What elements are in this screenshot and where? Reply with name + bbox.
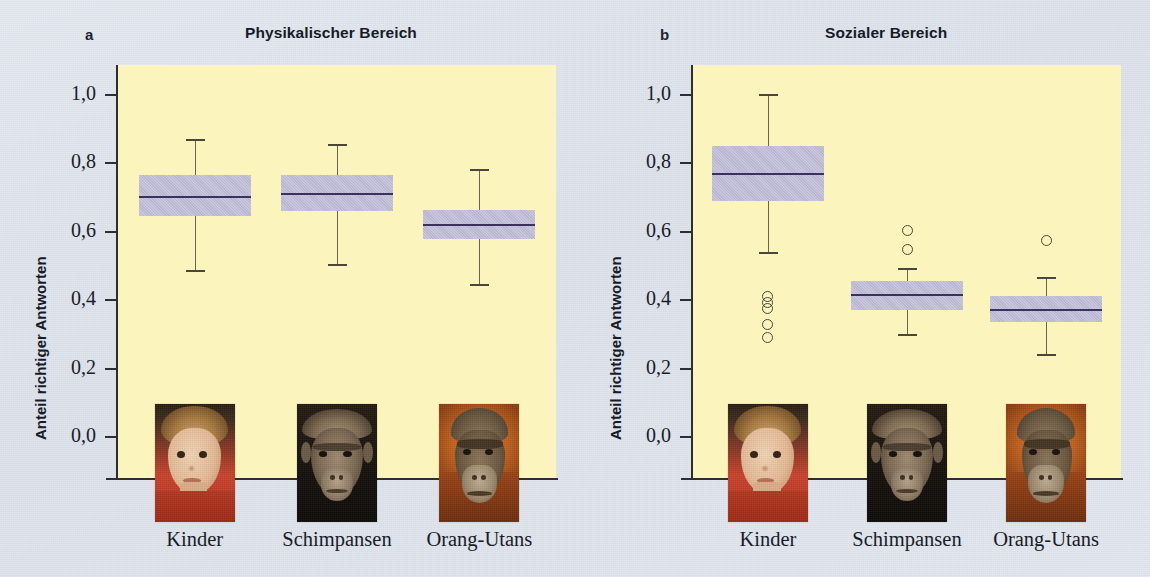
whisker-upper-a-1 bbox=[337, 145, 338, 176]
y-tick-label-a-4: 0,8 bbox=[44, 150, 96, 173]
x-tick-label-b-1: Schimpansen bbox=[829, 528, 985, 551]
y-axis-b bbox=[691, 65, 693, 480]
whisker-cap-upper-b-1 bbox=[898, 268, 917, 270]
whisker-upper-a-2 bbox=[479, 170, 480, 210]
median-a-0 bbox=[139, 196, 251, 198]
median-a-1 bbox=[281, 193, 393, 195]
chimpanzee-photo-a bbox=[297, 404, 377, 522]
y-tick-label-b-0: 0,0 bbox=[619, 424, 671, 447]
outlier-b-2-0 bbox=[1041, 235, 1052, 246]
whisker-cap-lower-a-1 bbox=[328, 264, 347, 266]
outlier-b-1-0 bbox=[902, 225, 913, 236]
whisker-lower-b-1 bbox=[907, 310, 908, 336]
whisker-upper-b-2 bbox=[1046, 278, 1047, 296]
y-tick-b-2 bbox=[680, 299, 691, 301]
whisker-cap-lower-b-0 bbox=[759, 252, 778, 254]
y-tick-a-2 bbox=[105, 299, 116, 301]
y-tick-b-3 bbox=[680, 231, 691, 233]
y-tick-b-0 bbox=[680, 436, 691, 438]
whisker-cap-upper-b-2 bbox=[1037, 277, 1056, 279]
y-tick-label-b-1: 0,2 bbox=[619, 356, 671, 379]
y-tick-a-3 bbox=[105, 231, 116, 233]
child-photo-b bbox=[728, 404, 808, 522]
median-b-0 bbox=[712, 173, 824, 175]
x-tick-label-a-2: Orang-Utans bbox=[401, 528, 557, 551]
y-tick-label-a-2: 0,4 bbox=[44, 287, 96, 310]
whisker-lower-b-0 bbox=[768, 201, 769, 254]
y-tick-label-b-2: 0,4 bbox=[619, 287, 671, 310]
panel-title-a: Physikalischer Bereich bbox=[245, 24, 417, 42]
y-axis-a bbox=[116, 65, 118, 480]
median-b-1 bbox=[851, 294, 963, 296]
y-tick-label-a-3: 0,6 bbox=[44, 219, 96, 242]
y-tick-b-4 bbox=[680, 162, 691, 164]
y-axis-label-a: Anteil richtiger Antworten bbox=[32, 256, 49, 440]
whisker-lower-b-2 bbox=[1046, 322, 1047, 355]
whisker-lower-a-0 bbox=[195, 216, 196, 271]
whisker-cap-lower-a-0 bbox=[186, 270, 205, 272]
x-tick-label-b-0: Kinder bbox=[690, 528, 846, 551]
whisker-cap-upper-b-0 bbox=[759, 94, 778, 96]
median-b-2 bbox=[990, 309, 1102, 311]
x-tick-label-b-2: Orang-Utans bbox=[968, 528, 1124, 551]
y-tick-a-5 bbox=[105, 94, 116, 96]
x-tick-label-a-0: Kinder bbox=[117, 528, 273, 551]
y-axis-label-b: Anteil richtiger Antworten bbox=[607, 256, 624, 440]
orangutan-photo-a bbox=[439, 404, 519, 522]
whisker-cap-lower-a-2 bbox=[470, 284, 489, 286]
y-tick-label-b-4: 0,8 bbox=[619, 150, 671, 173]
y-tick-b-1 bbox=[680, 368, 691, 370]
whisker-cap-upper-a-2 bbox=[470, 169, 489, 171]
whisker-cap-lower-b-2 bbox=[1037, 354, 1056, 356]
y-tick-label-a-5: 1,0 bbox=[44, 82, 96, 105]
x-tick-label-a-1: Schimpansen bbox=[259, 528, 415, 551]
whisker-upper-b-0 bbox=[768, 95, 769, 146]
outlier-b-0-4 bbox=[762, 332, 773, 343]
whisker-cap-lower-b-1 bbox=[898, 334, 917, 336]
outlier-b-1-1 bbox=[902, 244, 913, 255]
y-tick-a-4 bbox=[105, 162, 116, 164]
chimpanzee-photo-b bbox=[867, 404, 947, 522]
panel-letter-a: a bbox=[85, 26, 93, 43]
child-photo-a bbox=[155, 404, 235, 522]
whisker-lower-a-2 bbox=[479, 239, 480, 285]
y-tick-b-5 bbox=[680, 94, 691, 96]
orangutan-photo-b bbox=[1006, 404, 1086, 522]
whisker-upper-b-1 bbox=[907, 269, 908, 282]
median-a-2 bbox=[423, 224, 535, 226]
y-tick-label-b-5: 1,0 bbox=[619, 82, 671, 105]
whisker-upper-a-0 bbox=[195, 140, 196, 175]
whisker-lower-a-1 bbox=[337, 211, 338, 265]
panel-title-b: Sozialer Bereich bbox=[825, 24, 947, 42]
panel-letter-b: b bbox=[660, 26, 669, 43]
y-tick-label-a-1: 0,2 bbox=[44, 356, 96, 379]
y-tick-label-b-3: 0,6 bbox=[619, 219, 671, 242]
whisker-cap-upper-a-0 bbox=[186, 139, 205, 141]
outlier-b-0-3 bbox=[762, 319, 773, 330]
figure-two-panel-boxplots: aPhysikalischer Bereich0,00,20,40,60,81,… bbox=[0, 0, 1150, 577]
y-tick-label-a-0: 0,0 bbox=[44, 424, 96, 447]
y-tick-a-1 bbox=[105, 368, 116, 370]
y-tick-a-0 bbox=[105, 436, 116, 438]
whisker-cap-upper-a-1 bbox=[328, 144, 347, 146]
